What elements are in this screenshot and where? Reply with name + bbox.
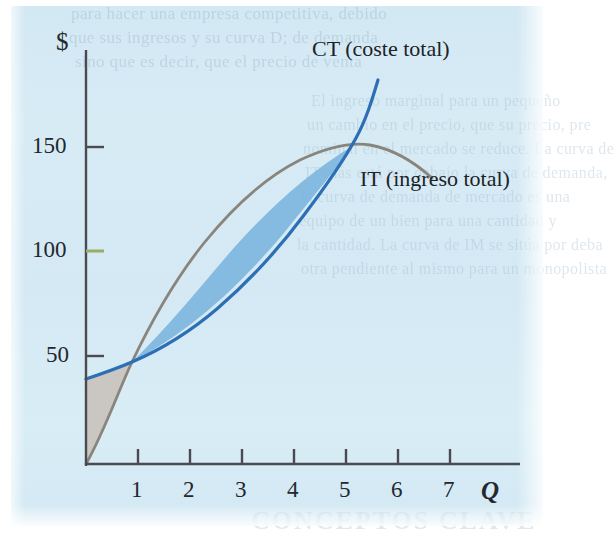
- it-curve: [86, 144, 432, 464]
- x-axis-title: Q: [481, 477, 499, 505]
- x-tick-label-6: 6: [391, 477, 403, 503]
- ct-curve: [86, 80, 378, 379]
- x-tick-label-4: 4: [287, 477, 299, 503]
- y-axis-title: $: [56, 28, 69, 56]
- it-curve-label: IT (ingreso total): [360, 166, 510, 192]
- x-tick-label-5: 5: [339, 477, 351, 503]
- y-tick-label-50: 50: [46, 342, 69, 368]
- x-tick-label-1: 1: [131, 477, 143, 503]
- x-tick-label-2: 2: [183, 477, 195, 503]
- x-tick-label-3: 3: [235, 477, 247, 503]
- y-tick-label-150: 150: [32, 133, 67, 159]
- profit-region: [132, 146, 353, 362]
- ct-curve-label: CT (coste total): [312, 36, 450, 62]
- x-tick-label-7: 7: [443, 477, 455, 503]
- y-tick-label-100: 100: [32, 237, 67, 263]
